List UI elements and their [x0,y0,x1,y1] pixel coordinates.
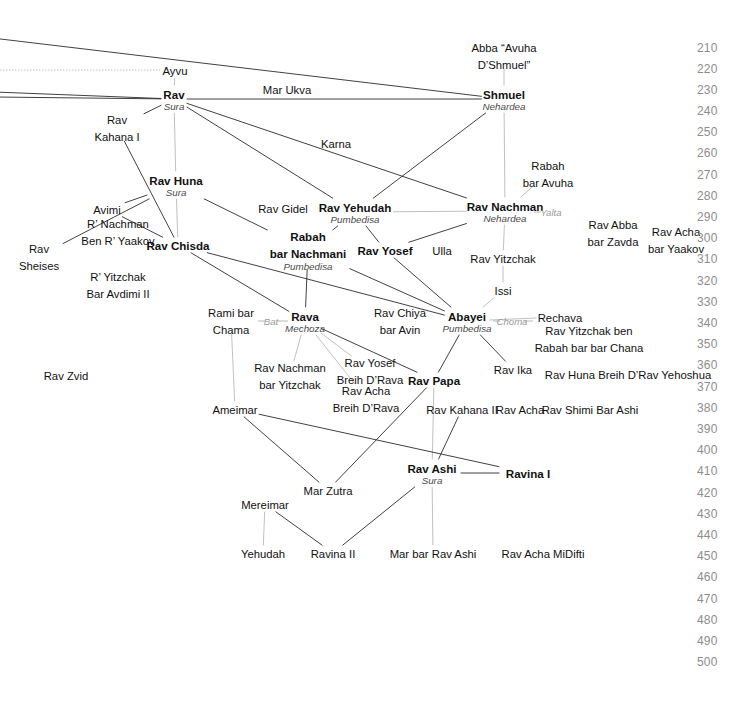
node-label: Rav Yosef [358,244,413,257]
node-ravnachmanyitz[interactable]: Rav Nachmanbar Yitzchak [254,358,326,393]
year-tick-370: 370 [697,380,718,394]
edge-issi-to-abayei [483,298,494,308]
node-ravachabreih[interactable]: Rav AchaBreih D’Rava [333,381,400,416]
node-ravyitzchak[interactable]: Rav Yitzchak [470,249,535,266]
year-tick-360: 360 [697,358,718,372]
node-ravnachman[interactable]: Rav NachmanNehardea [467,197,544,225]
node-label: Mar Ukva [263,84,311,96]
node-ravkahana2[interactable]: Rav Kahana II [426,400,498,417]
node-karna[interactable]: Karna [321,134,351,151]
year-tick-430: 430 [697,507,718,521]
node-ravachayaakov[interactable]: Rav Achabar Yaakov [648,222,704,257]
node-ravika[interactable]: Rav Ika [494,360,532,377]
node-label: R’ NachmanBen R’ Yaakov [81,218,154,247]
node-yehudah[interactable]: Yehudah [241,544,285,561]
year-tick-250: 250 [697,125,718,139]
relation-label-yalta: Yalta [540,207,561,218]
year-tick-380: 380 [697,401,718,415]
node-label: Rav Yehudah [319,201,392,214]
node-ravashi[interactable]: Rav AshiSura [407,459,456,487]
node-ravhuna[interactable]: Rav HunaSura [149,171,202,199]
year-tick-400: 400 [697,443,718,457]
node-ravchiya[interactable]: Rav Chiyabar Avin [374,303,426,338]
node-academy-label: Sura [163,102,184,113]
node-ravhunabreih[interactable]: Rav Huna Breih D’Rav Yehoshua [545,365,711,382]
node-ameimar[interactable]: Ameimar [212,400,257,417]
edge-ravpapa-to-ravashi [432,388,434,460]
node-marzutra[interactable]: Mar Zutra [304,481,353,498]
year-tick-500: 500 [697,655,718,669]
node-ravshimi[interactable]: Rav Shimi Bar Ashi [542,400,639,417]
year-tick-290: 290 [697,210,718,224]
node-ramibarchama[interactable]: Rami barChama [208,303,254,338]
node-shmuel[interactable]: ShmuelNehardea [482,85,525,113]
node-ravachamidifti[interactable]: Rav Acha MiDifti [502,544,585,561]
relation-label-choma: Choma [497,316,528,327]
node-label: Ayvu [163,65,188,77]
node-label: Rami barChama [208,307,254,336]
year-tick-330: 330 [697,295,718,309]
node-label: Abba “AvuhaD’Shmuel” [471,42,536,71]
node-label: Rav [163,88,184,101]
edge-abayei-to-ravika [480,335,506,362]
node-label: RavSheises [19,243,59,272]
year-tick-310: 310 [697,252,718,266]
edge-rav-to-ravhuna [174,113,175,172]
node-label: RavKahana I [94,114,139,143]
node-ulla[interactable]: Ulla [432,241,451,258]
node-ravgidel[interactable]: Rav Gidel [258,199,308,216]
year-tick-230: 230 [697,83,718,97]
year-tick-300: 300 [697,231,718,245]
node-rabahbaravuha[interactable]: Rabahbar Avuha [523,156,574,191]
node-issi[interactable]: Issi [495,281,512,298]
node-ravyitzrabah[interactable]: Rav Yitzchak benRabah bar bar Chana [535,321,644,356]
year-tick-270: 270 [697,168,718,182]
edge-ravyosef-to-abayei [394,258,451,308]
node-ravacha[interactable]: Rav Acha [496,400,544,417]
node-mereimar[interactable]: Mereimar [241,495,289,512]
node-label: Rav Acha [496,404,544,416]
node-ravpapa[interactable]: Rav Papa [408,371,460,388]
node-label: Karna [321,138,351,150]
edge-ramibarchama-to-ameimar [232,334,235,402]
year-tick-390: 390 [697,422,718,436]
year-tick-280: 280 [697,189,718,203]
node-marukva[interactable]: Mar Ukva [263,80,311,97]
node-abba[interactable]: Abba “AvuhaD’Shmuel” [471,38,536,73]
node-ravchisda[interactable]: Rav Chisda [146,236,209,253]
node-rnachmanyaakov[interactable]: R’ NachmanBen R’ Yaakov [81,214,154,249]
edge-ravyehudah-to-ravyosef [366,226,379,243]
node-ravina1[interactable]: Ravina I [506,464,550,481]
edge-shmuel-to-ravnachman [504,113,505,198]
node-academy-label: Pumbedisa [442,324,491,335]
node-academy-label: Nehardea [482,102,525,113]
node-label: Rav Yitzchak benRabah bar bar Chana [535,325,644,354]
node-label: Rav Shimi Bar Ashi [542,404,639,416]
node-rabah[interactable]: Rabahbar NachmaniPumbedisa [270,227,347,272]
node-ryitzchakavd[interactable]: R’ YitzchakBar Avdimi II [86,267,149,302]
node-ayvu[interactable]: Ayvu [163,61,188,78]
node-ravabba[interactable]: Rav Abbabar Zavda [588,215,639,250]
edge-ravnachman-to-ravyitzchak [503,225,504,251]
node-ravzvid[interactable]: Rav Zvid [44,366,89,383]
node-academy-label: Pumbedisa [319,215,392,226]
node-label: Rabahbar Avuha [523,160,574,189]
node-abayei[interactable]: AbayeiPumbedisa [442,307,491,335]
year-tick-260: 260 [697,146,718,160]
node-rav[interactable]: RavSura [163,85,184,113]
node-ravsheises[interactable]: RavSheises [19,239,59,274]
node-kahana1[interactable]: RavKahana I [94,110,139,145]
node-label: Rav Ika [494,364,532,376]
node-rava[interactable]: RavaMechoza [285,307,325,335]
node-label: Mereimar [241,499,289,511]
edge-mereimar-to-ravina2 [276,512,323,546]
year-tick-320: 320 [697,274,718,288]
node-ravyosef[interactable]: Rav Yosef [358,241,413,258]
node-ravina2[interactable]: Ravina II [311,544,356,561]
node-label: Rav Chisda [146,239,209,252]
node-marbarravashi[interactable]: Mar bar Rav Ashi [390,544,477,561]
node-label: Rav Acha MiDifti [502,548,585,560]
node-label: Rav Huna Breih D’Rav Yehoshua [545,369,711,381]
node-ravyehudah[interactable]: Rav YehudahPumbedisa [319,198,392,226]
year-tick-480: 480 [697,613,718,627]
